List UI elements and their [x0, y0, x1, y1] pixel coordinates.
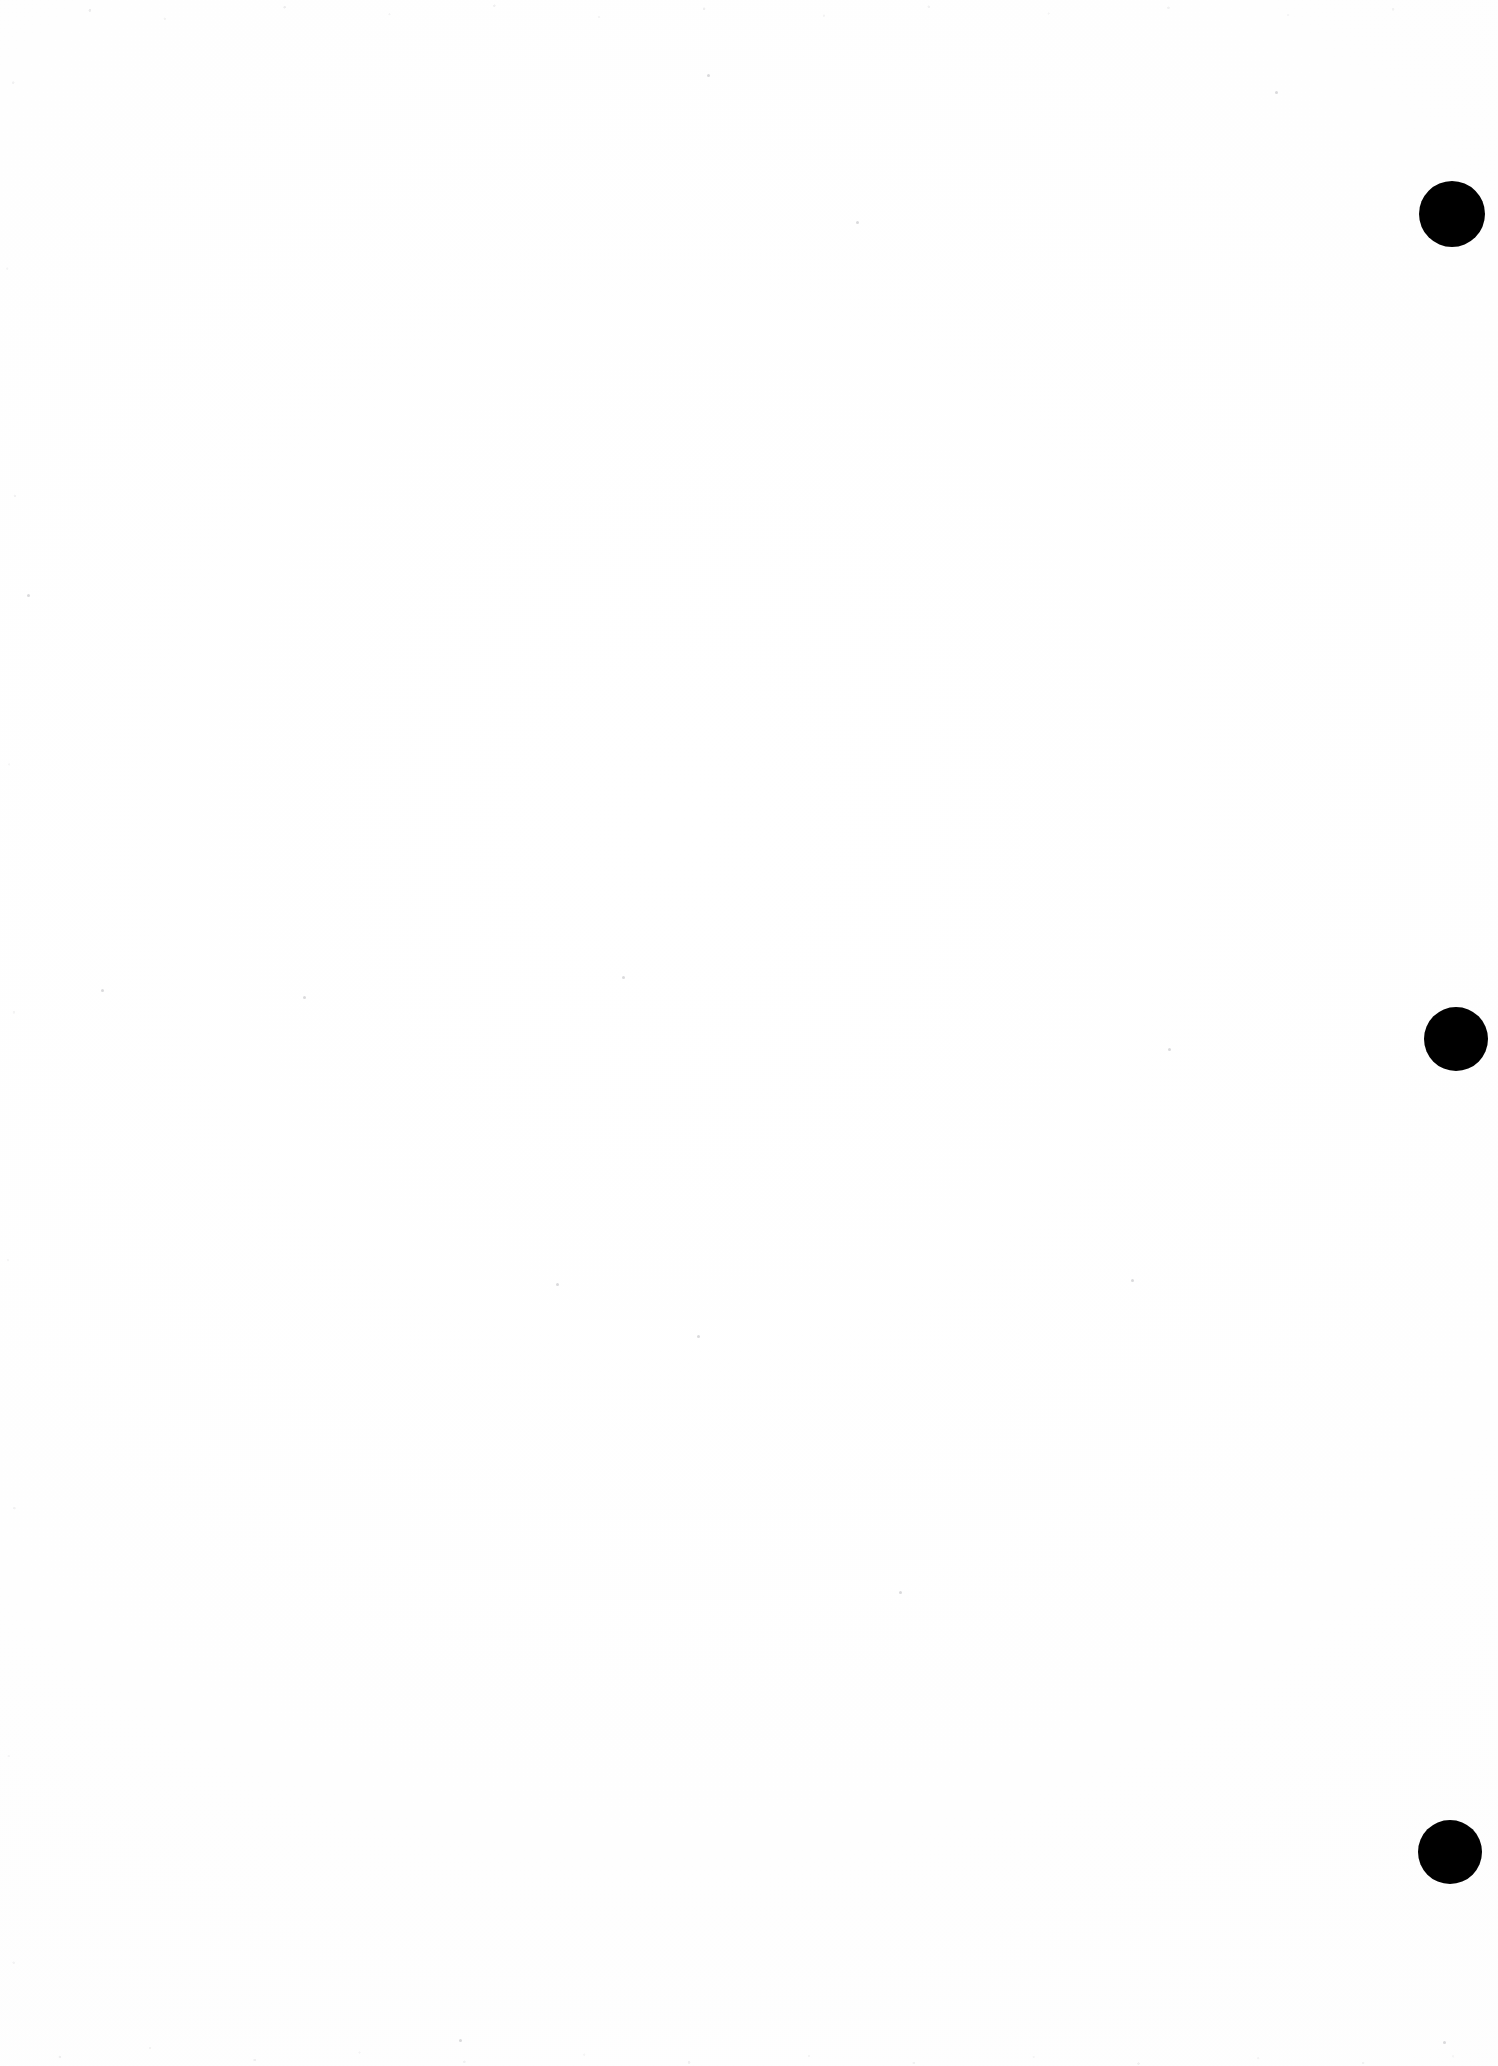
register-mark-2	[1424, 1007, 1488, 1071]
page-body-text	[0, 0, 1498, 2066]
register-mark-1	[1419, 181, 1485, 247]
scanned-page	[0, 0, 1498, 2066]
register-mark-3	[1418, 1820, 1482, 1884]
